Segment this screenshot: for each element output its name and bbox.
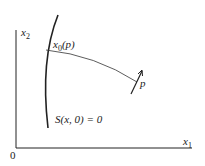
- diagram-graphics: [0, 0, 205, 166]
- origin-label: 0: [10, 149, 16, 161]
- characteristic-ray: [46, 50, 137, 82]
- y-axis-label: x2: [21, 26, 30, 41]
- initial-surface-curve: [46, 15, 58, 128]
- x-axis-label: x1: [183, 135, 192, 150]
- end-point-label: p: [140, 77, 146, 89]
- start-point-label: x0(p): [53, 38, 75, 53]
- characteristic-curve-diagram: x2 x1 0 x0(p) p S(x, 0) = 0: [0, 0, 205, 166]
- surface-equation-label: S(x, 0) = 0: [55, 113, 102, 125]
